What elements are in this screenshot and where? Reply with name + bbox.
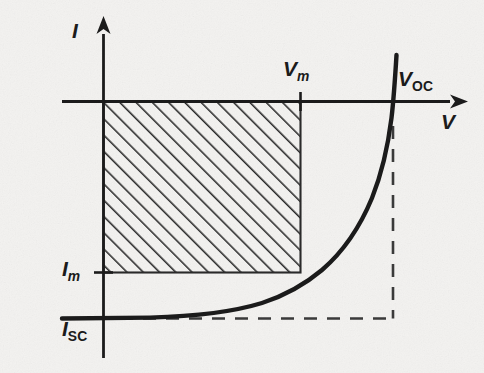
current-axis-label: I xyxy=(72,20,78,41)
v-max-power-label: Vm xyxy=(283,58,310,79)
max-power-rectangle xyxy=(104,102,301,273)
i-short-circuit-label: ISC xyxy=(62,318,88,339)
v-max-power-subscript: m xyxy=(297,68,310,84)
iv-curve-figure: I V Vm VOC Im ISC xyxy=(0,0,484,373)
v-open-circuit-subscript: OC xyxy=(412,78,433,94)
i-max-power-label: Im xyxy=(62,258,80,279)
voltage-axis-arrowhead xyxy=(450,95,468,109)
i-max-power-subscript: m xyxy=(68,268,81,284)
current-axis-arrowhead xyxy=(97,16,111,34)
i-short-circuit-subscript: SC xyxy=(68,328,88,344)
voltage-axis-label: V xyxy=(441,111,455,132)
v-open-circuit-label: VOC xyxy=(398,68,433,89)
